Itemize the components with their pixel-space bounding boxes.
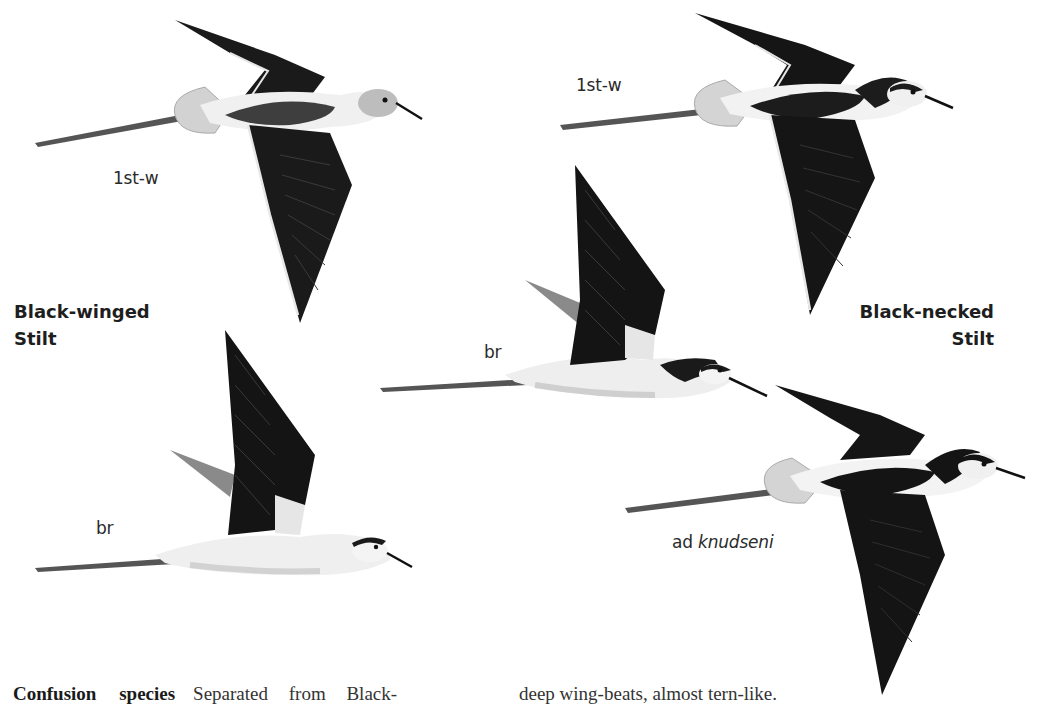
- species-heading-black-necked: Black-necked Stilt: [850, 298, 994, 352]
- label-black-winged-1stw: 1st-w: [113, 168, 158, 188]
- label-black-necked-br: br: [484, 342, 501, 362]
- body-text-col2: deep wing-beats, almost tern-like.: [519, 683, 777, 705]
- species-heading-black-necked-line1: Black-necked: [850, 298, 994, 325]
- confusion-species-heading: Confusion species: [13, 683, 175, 704]
- body-text-col2-line: deep wing-beats, almost tern-like.: [519, 683, 777, 704]
- label-black-necked-1stw: 1st-w: [576, 75, 621, 95]
- species-heading-black-winged-line1: Black-winged: [14, 298, 150, 325]
- black-winged-stilt-1stw-illustration: [30, 15, 430, 335]
- label-knudseni-age: ad: [672, 532, 693, 552]
- species-heading-black-necked-line2: Stilt: [850, 325, 994, 352]
- body-text-col1-line: Separated from Black-: [193, 683, 397, 704]
- body-text-col1: Confusion speciesSeparated from Black-: [13, 683, 397, 705]
- label-black-winged-br: br: [96, 518, 113, 538]
- label-knudseni: ad knudseni: [672, 532, 773, 552]
- label-knudseni-subspecies: knudseni: [698, 532, 773, 552]
- black-winged-stilt-br-illustration: [30, 325, 430, 585]
- species-heading-black-winged-line2: Stilt: [14, 325, 150, 352]
- species-heading-black-winged: Black-winged Stilt: [14, 298, 150, 352]
- black-necked-stilt-br-illustration: [375, 160, 775, 410]
- illustration-plate: 1st-w 1st-w br br ad knudseni Black-wing…: [0, 0, 1039, 712]
